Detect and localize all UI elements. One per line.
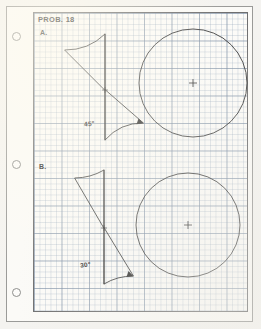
problem-a-angle-label: 45° bbox=[84, 119, 95, 127]
problem-b-angle-label: 30° bbox=[80, 260, 92, 268]
figure-b-upper-sector bbox=[75, 170, 104, 228]
circle-top-group bbox=[139, 29, 247, 137]
punch-hole-middle bbox=[12, 160, 21, 169]
figure-a-lower-sector bbox=[105, 90, 143, 140]
problem-b-label: B. bbox=[39, 163, 47, 170]
drawing-ink-layer bbox=[33, 12, 248, 312]
figure-b-arrowhead bbox=[127, 271, 134, 277]
worksheet-page: PROB. 18 A. B. 45° 30° bbox=[0, 0, 261, 329]
circle-top-center-crosshair bbox=[189, 79, 197, 87]
problem-a-label: A. bbox=[40, 29, 48, 36]
page-title: PROB. 18 bbox=[38, 15, 75, 24]
punch-hole-top bbox=[12, 32, 21, 41]
punch-hole-bottom bbox=[12, 288, 21, 297]
figure-a-upper-sector bbox=[65, 34, 105, 90]
circle-bottom-center-crosshair bbox=[184, 221, 192, 229]
figure-a-sector-pair bbox=[65, 34, 144, 140]
figure-b-apex-mark bbox=[102, 226, 107, 231]
circle-bottom-group bbox=[136, 173, 240, 277]
figure-a-arrowhead bbox=[137, 119, 144, 125]
